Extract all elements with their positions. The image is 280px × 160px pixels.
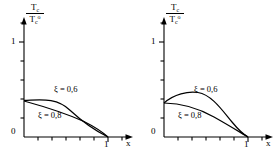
curve-label-xi-0-8-right: ξ = 0,8: [178, 110, 201, 120]
y-axis-denominator: Tco: [26, 14, 44, 25]
curve-label-xi-0-6-right: ξ = 0,6: [194, 84, 217, 94]
curve-xi-0-6-left: [24, 100, 108, 137]
figure-two-panel-plot: Tc Tco 1 0 1 x ξ = 0,6 ξ = 0,8: [0, 0, 280, 160]
curve-label-xi-0-8-left: ξ = 0,8: [38, 110, 61, 120]
plot-canvas-right: [140, 0, 280, 160]
x-axis-ticks-left: [38, 137, 122, 142]
origin-label-left: 0: [11, 126, 16, 136]
x-axis-label-right: x: [266, 138, 271, 148]
x-axis-ticks-right: [178, 137, 262, 142]
curve-xi-0-8-right: [164, 103, 248, 137]
curve-label-xi-0-6-left: ξ = 0,6: [54, 84, 77, 94]
y-tick-label-1-left: 1: [11, 36, 16, 46]
y-axis-label-right: Tc Tco: [166, 3, 184, 25]
y-axis-numerator: Tc: [166, 3, 184, 13]
y-axis-numerator: Tc: [26, 3, 44, 13]
y-axis-label-left: Tc Tco: [26, 3, 44, 25]
plot-panel-right: Tc Tco 1 0 1 x ξ = 0,6 ξ = 0,8: [140, 0, 280, 160]
curve-xi-0-6-right: [164, 92, 248, 137]
y-tick-label-1-right: 1: [151, 36, 156, 46]
plot-panel-left: Tc Tco 1 0 1 x ξ = 0,6 ξ = 0,8: [0, 0, 140, 160]
y-axis-right: [161, 17, 166, 137]
x-axis-label-left: x: [126, 138, 131, 148]
x-axis-left: [24, 134, 133, 139]
x-axis-right: [164, 134, 273, 139]
y-axis-denominator: Tco: [166, 14, 184, 25]
origin-label-right: 0: [151, 126, 156, 136]
x-tick-label-1-left: 1: [104, 139, 109, 149]
y-axis-left: [21, 17, 26, 137]
y-axis-ticks-left: [19, 23, 24, 118]
x-tick-label-1-right: 1: [244, 139, 249, 149]
y-axis-ticks-right: [159, 23, 164, 118]
plot-canvas-left: [0, 0, 140, 160]
